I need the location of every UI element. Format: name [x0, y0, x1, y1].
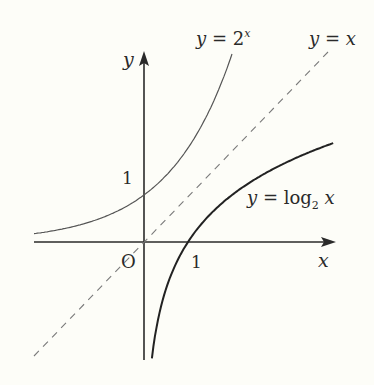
- log-curve: [152, 143, 333, 358]
- exp-label-sup: x: [244, 27, 251, 40]
- function-graph: y x O 1 1 y = 2x y = x y = log2 x: [0, 0, 374, 385]
- origin-label: O: [121, 251, 136, 272]
- y-axis-label: y: [122, 48, 134, 70]
- identity-line-label: y = x: [308, 28, 356, 49]
- exp-curve: [34, 54, 232, 234]
- y-tick-label: 1: [122, 168, 133, 188]
- x-axis-label: x: [318, 249, 329, 271]
- exp-curve-label: y = 2x: [195, 27, 251, 49]
- x-tick-label: 1: [191, 252, 202, 272]
- log-label-sub: 2: [312, 199, 319, 212]
- log-curve-label: y = log2 x: [246, 187, 335, 212]
- exp-label-mid: = 2: [206, 28, 244, 49]
